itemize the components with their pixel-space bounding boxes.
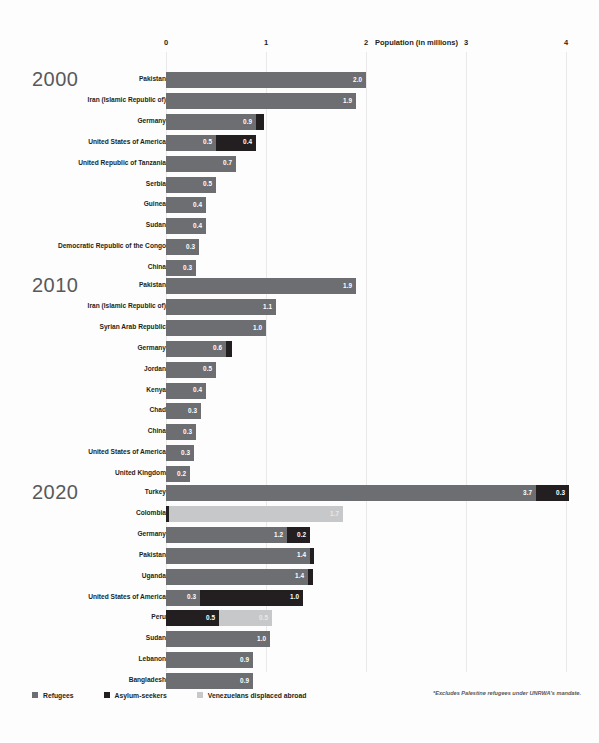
stacked-bar: 0.9 (166, 114, 264, 130)
bar-row-label: Guinea (144, 200, 166, 207)
bar-segment-asylum-seekers (308, 569, 313, 585)
panel-2020: 2020Turkey3.70.3Colombia1.7Germany1.20.2… (0, 485, 599, 694)
bar-row: Pakistan1.4 (0, 548, 599, 564)
bar-row-label: Chad (150, 406, 166, 413)
bar-row: Kenya0.4 (0, 383, 599, 399)
bar-segment-value: 1.9 (343, 283, 356, 289)
stacked-bar: 1.20.2 (166, 527, 310, 543)
bar-row-label: Sudan (146, 634, 166, 641)
stacked-bar: 1.1 (166, 299, 276, 315)
stacked-bar: 0.50.4 (166, 135, 256, 151)
bar-segment-value: 0.9 (240, 678, 253, 684)
bar-segment-value: 0.6 (213, 345, 226, 351)
stacked-bar: 0.4 (166, 383, 206, 399)
bar-row: Iran (Islamic Republic of)1.1 (0, 299, 599, 315)
bar-segment-value: 0.5 (203, 139, 216, 145)
bar-segment-refugees: 0.3 (166, 239, 199, 255)
bar-segment-value: 0.4 (193, 387, 206, 393)
bar-segment-refugees: 0.9 (166, 673, 253, 689)
bar-segment-value: 0.2 (177, 471, 190, 477)
stacked-bar: 1.4 (166, 569, 313, 585)
bar-segment-value: 0.9 (240, 657, 253, 663)
stacked-bar: 3.70.3 (166, 485, 569, 501)
bar-row-label: Pakistan (139, 281, 166, 288)
bar-row: Pakistan2.0 (0, 72, 599, 88)
stacked-bar: 0.3 (166, 239, 199, 255)
stacked-bar: 0.3 (166, 445, 194, 461)
bar-segment-value: 0.5 (206, 615, 219, 621)
bar-segment-value: 1.0 (253, 325, 266, 331)
bar-row-label: Kenya (146, 386, 166, 393)
stacked-bar: 0.3 (166, 260, 196, 276)
bar-row: Iran (Islamic Republic of)1.9 (0, 93, 599, 109)
bar-segment-asylum-seekers: 0.3 (536, 485, 569, 501)
bar-row-label: Syrian Arab Republic (100, 323, 166, 330)
stacked-bar: 1.9 (166, 278, 356, 294)
bar-row: Syrian Arab Republic1.0 (0, 320, 599, 336)
bar-row: Peru0.50.5 (0, 610, 599, 626)
stacked-bar: 1.4 (166, 548, 314, 564)
x-tick-2: 2 (364, 38, 368, 47)
stacked-bar: 0.5 (166, 362, 216, 378)
bar-segment-value: 0.3 (187, 594, 200, 600)
bar-segment-asylum-seekers: 0.5 (166, 610, 219, 626)
bar-segment-asylum-seekers: 0.2 (287, 527, 310, 543)
x-tick-0: 0 (164, 38, 168, 47)
bar-segment-asylum-seekers: 1.0 (200, 590, 303, 606)
bar-row-label: Peru (151, 613, 166, 620)
bar-segment-refugees: 0.7 (166, 156, 236, 172)
bar-segment-refugees: 1.9 (166, 93, 356, 109)
bar-segment-refugees: 1.2 (166, 527, 287, 543)
bar-segment-value: 0.5 (259, 615, 272, 621)
bar-row: Guinea0.4 (0, 197, 599, 213)
bar-segment-refugees: 0.6 (166, 341, 226, 357)
bar-row: Sudan1.0 (0, 631, 599, 647)
bar-segment-refugees: 1.0 (166, 631, 270, 647)
bar-row-label: Pakistan (139, 551, 166, 558)
bar-segment-refugees: 0.5 (166, 362, 216, 378)
bar-segment-refugees: 1.0 (166, 320, 266, 336)
bar-segment-refugees: 3.7 (166, 485, 536, 501)
stacked-bar: 0.7 (166, 156, 236, 172)
stacked-bar: 0.9 (166, 652, 253, 668)
bar-row: China0.3 (0, 260, 599, 276)
bar-segment-refugees: 0.4 (166, 197, 206, 213)
bar-row: Germany0.9 (0, 114, 599, 130)
bar-row: Uganda1.4 (0, 569, 599, 585)
bar-segment-value: 1.0 (257, 636, 270, 642)
stacked-bar: 0.4 (166, 218, 206, 234)
bar-segment-value: 1.4 (295, 573, 308, 579)
bar-row-label: United States of America (88, 138, 166, 145)
bar-row-label: China (148, 263, 166, 270)
legend-swatch-venezuelans (197, 692, 203, 698)
bar-segment-value: 0.9 (243, 119, 256, 125)
bar-segment-asylum-seekers: 0.4 (216, 135, 256, 151)
stacked-bar: 2.0 (166, 72, 366, 88)
bar-segment-value: 0.3 (186, 244, 199, 250)
bar-row: United Kingdom0.2 (0, 466, 599, 482)
stacked-bar: 0.31.0 (166, 590, 303, 606)
bar-segment-value: 0.4 (193, 202, 206, 208)
bar-row: United States of America0.3 (0, 445, 599, 461)
bar-segment-value: 3.7 (523, 490, 536, 496)
bar-row: Jordan0.5 (0, 362, 599, 378)
bar-segment-refugees: 1.9 (166, 278, 356, 294)
bar-segment-value: 0.3 (183, 265, 196, 271)
bar-segment-refugees: 1.4 (166, 548, 310, 564)
x-tick-4: 4 (564, 38, 568, 47)
stacked-bar: 0.9 (166, 673, 253, 689)
bar-segment-value: 1.7 (330, 511, 343, 517)
legend-swatch-asylum-seekers (104, 692, 110, 698)
stacked-bar: 1.7 (166, 506, 343, 522)
bar-row: Turkey3.70.3 (0, 485, 599, 501)
legend-label-venezuelans: Venezuelans displaced abroad (208, 692, 307, 699)
bar-row-label: Bangladesh (129, 676, 166, 683)
bar-segment-refugees: 0.5 (166, 135, 216, 151)
bar-segment-value: 0.5 (203, 181, 216, 187)
x-axis-title: Population (in millions) (375, 38, 458, 47)
bar-segment-refugees: 0.9 (166, 114, 256, 130)
bar-row-label: Iran (Islamic Republic of) (88, 96, 166, 103)
legend-item-refugees: Refugees (32, 692, 74, 699)
bar-row: China0.3 (0, 424, 599, 440)
bar-row: Democratic Republic of the Congo0.3 (0, 239, 599, 255)
